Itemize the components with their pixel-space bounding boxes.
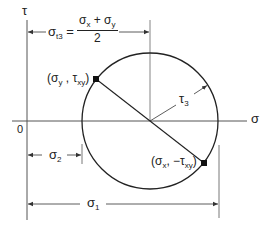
center-stress-fraction: σx + σy 2 — [77, 14, 118, 44]
fraction-denominator: 2 — [94, 31, 101, 44]
sigma2-label: σ2 — [49, 148, 61, 164]
tau-axis-label: τ — [22, 4, 27, 17]
point-label-sigma-x-neg-tau-xy: (σx, −τxy) — [151, 155, 197, 170]
fraction-numerator: σx + σy — [77, 14, 118, 31]
tau3-radius-line-outer — [194, 86, 207, 95]
sigma1-label: σ1 — [87, 196, 99, 212]
tau3-radius-line — [150, 105, 176, 121]
center-stress-subscript: t3 — [56, 32, 63, 41]
point-sigma-x-neg-tau-xy — [201, 160, 207, 166]
center-stress-label: σt3 = — [48, 25, 74, 41]
equals-sign: = — [66, 24, 74, 39]
point-sigma-y-tau-xy — [93, 76, 99, 82]
origin-label: 0 — [17, 124, 23, 135]
tau3-radius-label: τ3 — [179, 92, 189, 108]
mohr-circle-diagram — [0, 0, 272, 231]
center-stress-symbol: σ — [48, 24, 56, 39]
point-label-sigma-y-tau-xy: (σy , τxy) — [47, 72, 89, 87]
sigma-axis-label: σ — [251, 112, 259, 125]
